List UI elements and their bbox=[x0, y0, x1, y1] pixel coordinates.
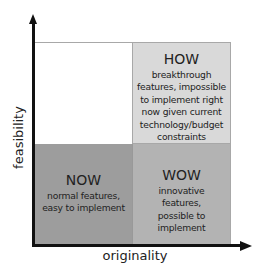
wow-title: WOW bbox=[133, 167, 230, 183]
x-axis-arrow-icon bbox=[240, 241, 252, 251]
y-axis-arrow-icon bbox=[29, 14, 37, 24]
quadrant-top-left-empty bbox=[35, 42, 132, 144]
x-axis-label: originality bbox=[95, 248, 175, 263]
how-description: breakthrough features, impossible to imp… bbox=[133, 67, 230, 143]
y-axis-line bbox=[32, 22, 35, 247]
quadrant-wow: WOW innovative features, possible to imp… bbox=[132, 144, 231, 245]
quadrant-now: NOW normal features, easy to implement bbox=[35, 144, 132, 245]
now-description: normal features, easy to implement bbox=[35, 188, 132, 215]
x-axis-line bbox=[32, 244, 242, 247]
quadrant-how: HOW breakthrough features, impossible to… bbox=[132, 42, 231, 144]
now-title: NOW bbox=[35, 172, 132, 188]
how-title: HOW bbox=[133, 51, 230, 67]
wow-description: innovative features, possible to impleme… bbox=[133, 183, 230, 235]
y-axis-label: feasibility bbox=[11, 98, 26, 178]
